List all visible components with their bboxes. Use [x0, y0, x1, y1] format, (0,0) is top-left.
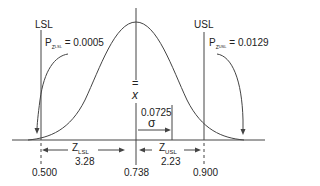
p-usl-symbol: P — [209, 37, 216, 48]
p-usl-arrowhead — [241, 129, 246, 135]
sigma-arrowhead — [165, 128, 171, 133]
z-usl-sub: USL — [165, 149, 177, 155]
axis-tick-mean: 0.738 — [124, 168, 149, 178]
p-lsl-subsub: LSL — [55, 44, 62, 49]
z-usl-arrowhead-left — [139, 148, 145, 153]
lsl-label: LSL — [35, 20, 53, 30]
axis-tick-usl: 0.900 — [193, 168, 218, 178]
sigma-value: 0.0725 — [141, 108, 172, 118]
sigma-symbol: σ — [148, 117, 155, 129]
z-lsl-arrowhead-right — [119, 148, 125, 153]
z-usl-arrowhead-right — [195, 148, 201, 153]
usl-label: USL — [194, 20, 213, 30]
p-usl-subsub: USL — [219, 44, 227, 49]
p-usl-value: = 0.0129 — [229, 37, 268, 48]
p-lsl-label: PZLSL = 0.0005 — [45, 38, 104, 48]
z-lsl-value: 3.28 — [75, 157, 94, 167]
p-usl-curved-arrow — [217, 54, 243, 131]
p-usl-label: PZUSL = 0.0129 — [209, 38, 269, 48]
z-usl-value: 2.23 — [161, 157, 180, 167]
p-lsl-symbol: P — [45, 37, 52, 48]
axis-tick-lsl: 0.500 — [32, 168, 57, 178]
p-lsl-value: = 0.0005 — [65, 37, 104, 48]
z-lsl-label: ZLSL — [72, 143, 89, 153]
z-lsl-arrowhead-left — [42, 148, 48, 153]
p-lsl-arrowhead — [35, 128, 40, 134]
z-lsl-sub: LSL — [78, 149, 89, 155]
p-lsl-curved-arrow — [37, 54, 68, 130]
z-usl-label: ZUSL — [159, 143, 177, 153]
mean-symbol: x — [132, 89, 138, 101]
